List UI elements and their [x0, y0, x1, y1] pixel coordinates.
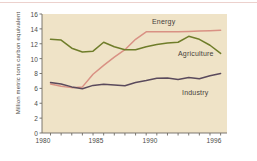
y-tick-label-14: 14	[24, 26, 38, 33]
y-axis-title: Million metric tons carbon equivalent	[15, 3, 21, 123]
series-label-industry: Industry	[182, 89, 209, 96]
x-tick-label-1985: 1985	[83, 137, 109, 144]
chart-figure: 16 14 12 10 8 6 4 2 0 1980 1985 1990 199…	[0, 0, 257, 161]
y-tick-label-10: 10	[24, 56, 38, 63]
series-line-energy	[51, 30, 221, 87]
series-label-agriculture: Agriculture	[178, 50, 214, 57]
x-tick-label-1996: 1996	[201, 137, 227, 144]
y-tick-label-4: 4	[24, 100, 38, 107]
y-tick-label-0: 0	[24, 130, 38, 137]
y-tick-label-16: 16	[24, 11, 38, 18]
series-lines	[51, 30, 221, 88]
x-tick-label-1980: 1980	[30, 137, 56, 144]
y-tick-label-12: 12	[24, 41, 38, 48]
y-tick-label-8: 8	[24, 70, 38, 77]
series-line-industry	[51, 74, 221, 89]
series-label-energy: Energy	[152, 18, 175, 25]
y-tick-label-6: 6	[24, 85, 38, 92]
x-tick-label-1990: 1990	[137, 137, 163, 144]
y-tick-label-2: 2	[24, 115, 38, 122]
